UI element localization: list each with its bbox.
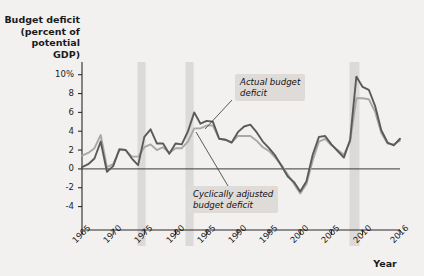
y-tick-label: 2: [40, 145, 74, 155]
y-tick-label: 10%: [40, 69, 74, 79]
y-tick-label: 4: [40, 126, 74, 136]
y-tick-label: 0: [40, 163, 74, 173]
y-tick-label: -4: [40, 201, 74, 211]
y-tick-label: 6: [40, 107, 74, 117]
recession-band-1: [186, 62, 194, 246]
annotation-leader-line: [205, 100, 232, 129]
chart-figure: Budget deficit (percent of potential GDP…: [0, 0, 424, 276]
y-tick-label: -2: [40, 182, 74, 192]
annotation-cyclically-adjusted-budget-deficit: Cyclically adjusted budget deficit: [188, 186, 278, 213]
y-tick-label: 8: [40, 88, 74, 98]
annotation-actual-budget-deficit: Actual budget deficit: [235, 74, 305, 101]
